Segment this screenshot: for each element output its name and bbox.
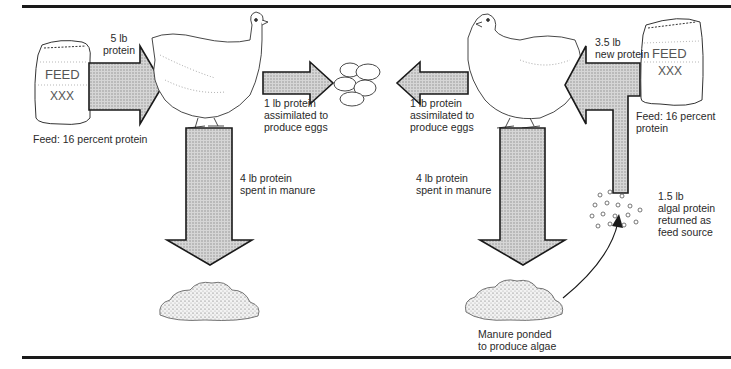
svg-text:XXX: XXX [50, 89, 74, 103]
left-chicken-icon [152, 12, 268, 128]
svg-text:XXX: XXX [658, 64, 682, 78]
left-manure-arrow [167, 128, 252, 265]
right-feed-caption: Feed: 16 percent protein [636, 110, 715, 134]
right-eggs-label: 1 lb protein assimilated to produce eggs [410, 97, 474, 133]
algae-label: 1.5 lb algal protein returned as feed so… [658, 190, 715, 238]
left-eggs-label: 1 lb protein assimilated to produce eggs [264, 97, 328, 133]
pond-caption: Manure ponded to produce algae [478, 328, 556, 352]
right-manure-arrow [480, 128, 565, 265]
right-manure-pond-icon [465, 280, 562, 321]
left-feed-caption: Feed: 16 percent protein [33, 133, 147, 145]
right-input-label: 3.5 lb new protein [595, 36, 649, 60]
right-input-arrow [565, 46, 640, 193]
left-input-label: 5 lb protein [94, 32, 144, 56]
left-feed-bag-icon: FEED XXX [35, 41, 90, 125]
left-manure-pile-icon [160, 282, 259, 320]
right-manure-label: 4 lb protein spent in manure [416, 172, 491, 196]
left-input-arrow [89, 46, 163, 124]
eggs-icon [334, 63, 380, 106]
svg-text:FEED: FEED [652, 46, 687, 61]
algae-return-curve-arrow [563, 222, 618, 298]
left-manure-label: 4 lb protein spent in manure [240, 172, 315, 196]
right-feed-bag-icon: FEED XXX [641, 19, 703, 106]
left-feed-bag-label: FEED [45, 67, 80, 82]
right-chicken-icon [468, 14, 582, 128]
